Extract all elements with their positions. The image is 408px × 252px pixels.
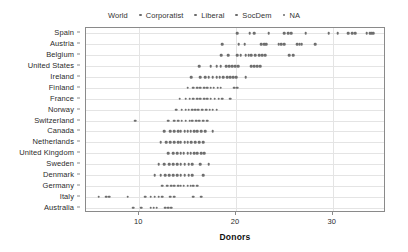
- data-point: [169, 130, 172, 133]
- data-point: [170, 206, 173, 209]
- legend-marker-icon: [235, 14, 238, 17]
- data-point: [165, 141, 168, 144]
- data-point: [192, 195, 195, 198]
- data-point: [283, 32, 286, 35]
- grid-line-vertical: [139, 28, 140, 211]
- data-point: [265, 43, 268, 46]
- legend-label: Liberal: [201, 11, 224, 20]
- data-point: [153, 195, 156, 198]
- y-axis-tick-label: Denmark: [43, 169, 74, 178]
- data-point: [208, 76, 211, 79]
- x-axis-tick: [138, 212, 139, 215]
- legend-marker-icon: [194, 14, 197, 17]
- grid-line-horizontal: [86, 208, 384, 209]
- data-point: [210, 65, 213, 68]
- data-point: [205, 108, 208, 111]
- data-point: [288, 54, 291, 57]
- y-axis-tick: [77, 86, 80, 87]
- data-point: [283, 43, 286, 46]
- data-point: [163, 163, 166, 166]
- data-point: [199, 87, 202, 90]
- legend-item-na[interactable]: NA: [283, 11, 300, 20]
- y-axis-tick: [77, 141, 80, 142]
- grid-line-horizontal: [86, 99, 384, 100]
- data-point: [196, 130, 199, 133]
- chart-legend: World Corporatist Liberal SocDem NA: [0, 8, 408, 22]
- y-axis-tick: [77, 152, 80, 153]
- grid-line-horizontal: [86, 44, 384, 45]
- data-point: [244, 76, 247, 79]
- data-point: [189, 152, 192, 155]
- data-point: [184, 97, 187, 100]
- legend-item-liberal[interactable]: Liberal: [194, 11, 224, 20]
- data-point: [172, 152, 175, 155]
- legend-item-socdem[interactable]: SocDem: [235, 11, 271, 20]
- data-point: [196, 152, 199, 155]
- data-point: [161, 195, 164, 198]
- data-point: [161, 184, 164, 187]
- data-point: [168, 163, 171, 166]
- y-axis-tick: [77, 173, 80, 174]
- data-point: [163, 130, 166, 133]
- y-axis-tick: [77, 32, 80, 33]
- data-point: [169, 141, 172, 144]
- data-point: [199, 163, 202, 166]
- data-point: [173, 141, 176, 144]
- data-point: [236, 32, 239, 35]
- y-axis-tick: [77, 163, 80, 164]
- data-point: [301, 43, 304, 46]
- data-point: [157, 163, 160, 166]
- data-point: [213, 97, 216, 100]
- data-point: [194, 141, 197, 144]
- data-point: [264, 54, 267, 57]
- data-point: [192, 97, 195, 100]
- y-axis: SpainAustriaBelgiumUnited StatesIrelandF…: [0, 27, 80, 212]
- data-point: [188, 97, 191, 100]
- data-point: [187, 108, 190, 111]
- data-point: [172, 163, 175, 166]
- data-point: [180, 163, 183, 166]
- data-point: [196, 184, 199, 187]
- y-axis-tick-label: France: [50, 93, 74, 102]
- data-point: [248, 32, 251, 35]
- data-point: [314, 43, 317, 46]
- data-point: [372, 32, 375, 35]
- legend-item-corporatist[interactable]: Corporatist: [139, 11, 184, 20]
- data-point: [177, 119, 180, 122]
- y-axis-tick-label: Sweden: [46, 159, 74, 168]
- y-axis-tick: [77, 206, 80, 207]
- data-point: [159, 174, 162, 177]
- data-point: [250, 54, 253, 57]
- data-point: [97, 195, 100, 198]
- data-point: [190, 76, 193, 79]
- data-point: [211, 76, 214, 79]
- plot-area: [85, 27, 385, 212]
- y-axis-tick: [77, 97, 80, 98]
- data-point: [191, 119, 194, 122]
- grid-line-horizontal: [86, 142, 384, 143]
- chart-root: World Corporatist Liberal SocDem NA Spai…: [0, 0, 408, 252]
- data-point: [187, 163, 190, 166]
- data-point: [176, 152, 179, 155]
- y-axis-tick-label: Ireland: [50, 71, 74, 80]
- y-axis-tick-label: Austria: [50, 39, 74, 48]
- data-point: [219, 87, 222, 90]
- data-point: [292, 54, 295, 57]
- data-point: [203, 152, 206, 155]
- data-point: [219, 65, 222, 68]
- data-point: [204, 76, 207, 79]
- data-point: [290, 32, 293, 35]
- data-point: [182, 152, 185, 155]
- data-point: [221, 97, 224, 100]
- data-point: [150, 195, 153, 198]
- data-point: [220, 54, 223, 57]
- data-point: [202, 119, 205, 122]
- data-point: [197, 108, 200, 111]
- data-point: [206, 97, 209, 100]
- data-point: [268, 32, 271, 35]
- data-point: [211, 108, 214, 111]
- data-point: [181, 119, 184, 122]
- y-axis-tick: [77, 119, 80, 120]
- legend-marker-icon: [283, 14, 286, 17]
- data-point: [218, 76, 221, 79]
